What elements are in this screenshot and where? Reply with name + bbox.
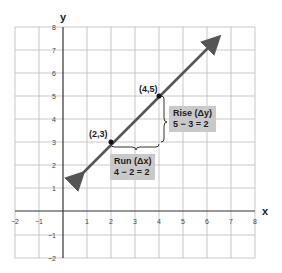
svg-text:3: 3 bbox=[133, 218, 137, 225]
svg-text:4: 4 bbox=[52, 116, 56, 123]
rise-equation: 5 − 3 = 2 bbox=[173, 119, 212, 130]
run-annotation: Run (Δx) 4 − 2 = 2 bbox=[110, 154, 155, 180]
svg-text:7: 7 bbox=[229, 218, 233, 225]
rise-title: Rise (Δy) bbox=[173, 108, 212, 119]
svg-text:−1: −1 bbox=[35, 218, 43, 225]
svg-text:3: 3 bbox=[52, 139, 56, 146]
svg-text:2: 2 bbox=[109, 218, 113, 225]
svg-text:5: 5 bbox=[181, 218, 185, 225]
rise-annotation: Rise (Δy) 5 − 3 = 2 bbox=[169, 106, 216, 132]
svg-text:4: 4 bbox=[157, 218, 161, 225]
svg-text:−2: −2 bbox=[11, 218, 19, 225]
svg-text:6: 6 bbox=[52, 70, 56, 77]
coordinate-plane: −2−1 123 456 78 876 543 21 −1−2 x y (2,3… bbox=[0, 0, 282, 273]
svg-text:5: 5 bbox=[52, 93, 56, 100]
svg-text:7: 7 bbox=[52, 47, 56, 54]
x-axis-label: x bbox=[262, 205, 269, 217]
svg-text:8: 8 bbox=[253, 218, 257, 225]
svg-text:1: 1 bbox=[52, 185, 56, 192]
run-title: Run (Δx) bbox=[114, 156, 151, 167]
point-4-5 bbox=[157, 94, 162, 99]
svg-text:1: 1 bbox=[85, 218, 89, 225]
svg-text:6: 6 bbox=[205, 218, 209, 225]
svg-text:−2: −2 bbox=[48, 255, 56, 262]
svg-text:−1: −1 bbox=[48, 232, 56, 239]
svg-text:2: 2 bbox=[52, 162, 56, 169]
y-tick-labels: 876 543 21 −1−2 bbox=[48, 24, 56, 262]
point-2-3 bbox=[109, 140, 114, 145]
point-label-2-3: (2,3) bbox=[89, 129, 108, 139]
run-equation: 4 − 2 = 2 bbox=[114, 167, 151, 178]
y-axis-label: y bbox=[60, 11, 67, 23]
point-label-4-5: (4,5) bbox=[139, 84, 158, 94]
x-tick-labels: −2−1 123 456 78 bbox=[11, 218, 257, 225]
svg-text:8: 8 bbox=[52, 24, 56, 31]
